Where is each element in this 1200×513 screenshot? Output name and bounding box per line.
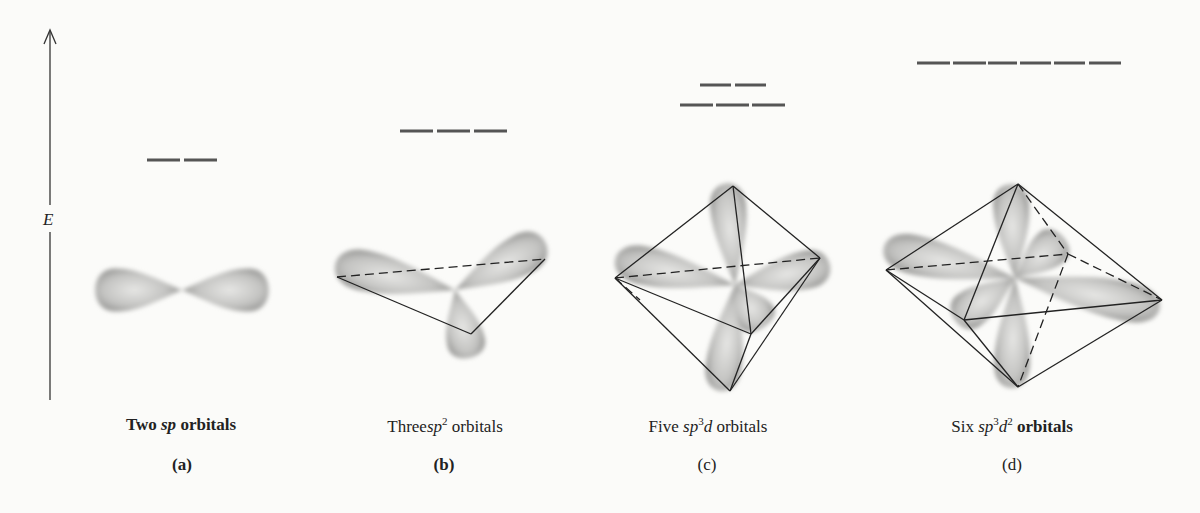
sublabel-d: (d)	[1002, 455, 1022, 475]
panel-c-sp3d	[611, 85, 833, 394]
caption-c: Five sp3d orbitals	[649, 415, 768, 437]
sp2-orbital-lobes	[331, 224, 555, 362]
sublabel-c: (c)	[698, 455, 717, 475]
sublabel-b: (b)	[434, 455, 455, 475]
sp-orbital-lobes	[95, 268, 268, 311]
panel-a-sp	[95, 160, 268, 312]
caption-a: Two sp orbitals	[126, 415, 236, 435]
caption-b: Threesp2 orbitals	[387, 415, 503, 437]
energy-levels-c	[680, 85, 785, 105]
sublabel-a: (a)	[172, 455, 192, 475]
panel-b-sp2	[331, 131, 555, 362]
sp3d2-orbital-lobes	[879, 183, 1163, 388]
caption-d: Six sp3d2 orbitals	[951, 415, 1073, 437]
panel-d-sp3d2	[879, 63, 1163, 389]
energy-axis-label: E	[43, 208, 53, 232]
